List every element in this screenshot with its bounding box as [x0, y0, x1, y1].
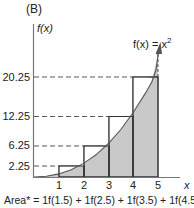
y-tick-2-25: 2.25 [0, 161, 30, 172]
y-tick-6-25: 6.25 [0, 140, 30, 151]
panel-label: (B) [26, 3, 42, 15]
function-exponent: 2 [167, 36, 171, 45]
x-tick-3: 3 [104, 180, 114, 191]
function-label-text: f(x) = x [133, 38, 167, 50]
y-axis-label: f(x) [37, 23, 53, 34]
shaded-area-under-curve [34, 54, 158, 178]
y-tick-20-25: 20.25 [0, 72, 30, 83]
function-label: f(x) = x2 [133, 37, 171, 50]
area-formula: Area* = 1f(1.5) + 1f(2.5) + 1f(3.5) + 1f… [4, 195, 194, 206]
x-tick-2: 2 [79, 180, 89, 191]
x-tick-4: 4 [128, 180, 138, 191]
chart-canvas [0, 0, 194, 208]
x-tick-5: 5 [153, 180, 163, 191]
y-tick-12-25: 12.25 [0, 111, 30, 122]
x-axis-label: x [184, 180, 190, 191]
x-tick-1: 1 [54, 180, 64, 191]
